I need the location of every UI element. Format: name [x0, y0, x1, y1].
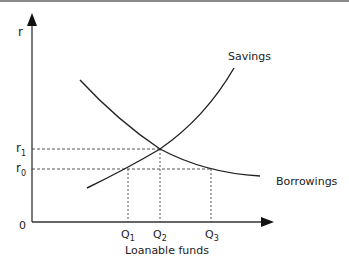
r1-label: r1	[16, 141, 26, 158]
y-axis-label: r	[18, 25, 23, 39]
borrowings-curve	[80, 80, 260, 176]
loanable-funds-diagram: r 0 r1 r0 Q1 Q2 Q3 Loanable funds Saving…	[0, 0, 349, 267]
x-axis-arrow-icon	[261, 217, 274, 227]
origin-label: 0	[19, 219, 26, 232]
q3-label: Q3	[205, 228, 219, 243]
savings-curve-label: Savings	[228, 50, 271, 63]
q2-label: Q2	[153, 228, 167, 243]
x-axis-label: Loanable funds	[125, 244, 209, 257]
borrowings-curve-label: Borrowings	[276, 175, 338, 188]
q1-label: Q1	[121, 228, 135, 243]
r0-label: r0	[16, 161, 26, 178]
y-axis-arrow-icon	[27, 13, 37, 26]
